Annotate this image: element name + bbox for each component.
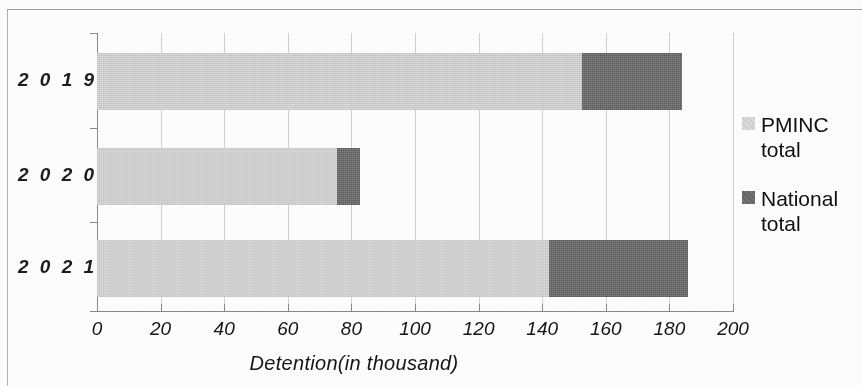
legend-item-pminc-total[interactable]: PMINCtotal xyxy=(742,112,829,162)
y-axis-tick xyxy=(90,311,97,312)
category-label-2020: 2 0 2 0 xyxy=(18,164,97,186)
legend-label-pminc-total: PMINCtotal xyxy=(761,112,829,162)
legend-label-line1: National xyxy=(761,187,838,210)
x-axis-tick xyxy=(606,304,607,312)
x-axis-tick-label: 60 xyxy=(277,318,298,340)
legend-item-national-total[interactable]: Nationaltotal xyxy=(742,186,838,236)
x-axis-tick-label: 100 xyxy=(399,318,431,340)
x-axis-tick xyxy=(224,304,225,312)
x-axis-tick xyxy=(669,304,670,312)
x-axis-tick xyxy=(351,304,352,312)
bar-segment-pminc-total[interactable] xyxy=(97,240,549,297)
x-axis-tick xyxy=(415,304,416,312)
x-axis-tick-label: 120 xyxy=(463,318,495,340)
x-axis-tick xyxy=(479,304,480,312)
x-axis-tick-label: 0 xyxy=(92,318,103,340)
legend-label-line2: total xyxy=(761,212,801,235)
y-axis-tick xyxy=(90,33,97,34)
x-axis-tick-label: 160 xyxy=(590,318,622,340)
legend-label-national-total: Nationaltotal xyxy=(761,186,838,236)
bar-row xyxy=(0,148,862,205)
x-axis-tick-label: 140 xyxy=(526,318,558,340)
dark-gray-swatch-icon xyxy=(742,191,755,204)
x-axis-tick xyxy=(161,304,162,312)
light-gray-swatch-icon xyxy=(742,117,755,130)
x-axis-tick xyxy=(733,304,734,312)
y-axis-tick xyxy=(90,128,97,129)
x-axis-tick-label: 180 xyxy=(654,318,686,340)
y-axis-tick xyxy=(90,222,97,223)
x-axis-title-text: Detention(in thousand) xyxy=(250,352,459,375)
bar-segment-national-total[interactable] xyxy=(549,240,689,297)
legend-label-line1: PMINC xyxy=(761,113,829,136)
x-axis-tick-label: 80 xyxy=(341,318,362,340)
bar-segment-national-total[interactable] xyxy=(582,53,682,110)
bar-segment-pminc-total[interactable] xyxy=(97,53,582,110)
x-axis-tick xyxy=(288,304,289,312)
stacked-bar-chart: 2 0 1 92 0 2 02 0 2 1 020406080100120140… xyxy=(0,0,862,386)
x-axis-tick xyxy=(97,304,98,312)
x-axis-tick-label: 20 xyxy=(150,318,171,340)
category-label-2021: 2 0 2 1 xyxy=(18,256,97,278)
x-axis-tick xyxy=(542,304,543,312)
category-label-2019: 2 0 1 9 xyxy=(18,69,97,91)
x-axis-title: Detention(in thousand) xyxy=(0,352,862,375)
bar-row xyxy=(0,53,862,110)
legend-label-line2: total xyxy=(761,138,801,161)
x-axis-tick-label: 40 xyxy=(214,318,235,340)
bar-segment-national-total[interactable] xyxy=(337,148,360,205)
bar-row xyxy=(0,240,862,297)
bar-segment-pminc-total[interactable] xyxy=(97,148,337,205)
x-axis-tick-label: 200 xyxy=(717,318,749,340)
